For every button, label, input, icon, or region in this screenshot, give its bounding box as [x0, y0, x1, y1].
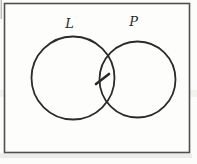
- set-label-right: P: [128, 14, 138, 29]
- set-label-left: L: [64, 16, 74, 31]
- scan-streak-left-edge: [1, 0, 2, 19]
- scan-streak-bottom: [0, 154, 192, 159]
- venn-diagram-canvas: L P: [0, 0, 197, 164]
- venn-diagram-figure: L P: [0, 0, 197, 164]
